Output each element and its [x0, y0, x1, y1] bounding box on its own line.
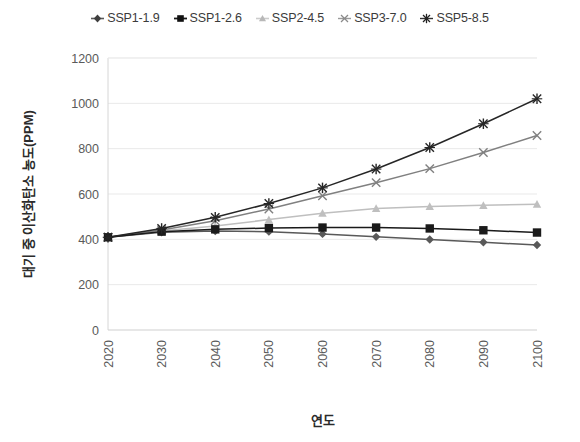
- y-axis-tick-labels: 020040060080010001200: [71, 52, 99, 338]
- x-tick-label: 2070: [370, 340, 384, 368]
- series-marker: [264, 198, 275, 209]
- x-axis-tick-labels: 202020302040205020602070208020902100: [102, 340, 545, 368]
- gridlines: [108, 58, 537, 285]
- series-marker: [533, 131, 541, 139]
- y-tick-label: 200: [78, 278, 99, 292]
- data-series-lines: [103, 94, 543, 250]
- series-marker: [103, 232, 114, 243]
- series-marker: [317, 183, 328, 194]
- y-tick-label: 800: [78, 142, 99, 156]
- y-tick-label: 0: [92, 324, 99, 338]
- series-marker: [479, 148, 487, 156]
- y-axis-title: 대기 중 이산화탄소 농도(PPM): [21, 110, 36, 278]
- series-marker: [533, 228, 541, 236]
- series-marker: [318, 223, 326, 231]
- x-tick-label: 2090: [477, 340, 491, 368]
- series-marker: [478, 118, 489, 129]
- series-marker: [425, 142, 436, 153]
- y-tick-label: 600: [78, 188, 99, 202]
- series-marker: [532, 94, 543, 105]
- series-marker: [372, 223, 380, 231]
- x-tick-label: 2060: [316, 340, 330, 368]
- series-marker: [426, 235, 434, 243]
- series-marker: [156, 223, 167, 234]
- axis-titles: 대기 중 이산화탄소 농도(PPM)연도: [21, 110, 335, 428]
- series-marker: [426, 224, 434, 232]
- x-tick-label: 2020: [102, 340, 116, 368]
- x-tick-label: 2030: [155, 340, 169, 368]
- plot-area: 020040060080010001200 202020302040205020…: [0, 0, 580, 442]
- x-tick-label: 2080: [423, 340, 437, 368]
- x-tick-label: 2100: [531, 340, 545, 368]
- series-marker: [371, 164, 382, 175]
- y-tick-label: 400: [78, 233, 99, 247]
- x-tick-label: 2050: [262, 340, 276, 368]
- x-tick-label: 2040: [209, 340, 223, 368]
- series-marker: [211, 225, 219, 233]
- x-axis-title: 연도: [311, 413, 335, 428]
- y-tick-label: 1200: [71, 52, 99, 66]
- series-marker: [533, 241, 541, 249]
- y-tick-label: 1000: [71, 97, 99, 111]
- series-SSP5-8.5: [103, 94, 543, 243]
- series-marker: [479, 226, 487, 234]
- series-marker: [265, 224, 273, 232]
- series-marker: [210, 212, 221, 223]
- co2-concentration-line-chart: SSP1-1.9 SSP1-2.6 SSP2-4.5: [0, 0, 580, 442]
